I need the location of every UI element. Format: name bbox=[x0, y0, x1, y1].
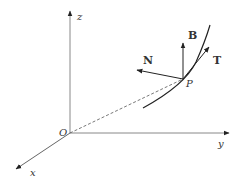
normal-vector bbox=[137, 70, 183, 79]
z-label: z bbox=[76, 11, 83, 22]
x-axis bbox=[16, 133, 70, 169]
tangent-label: T bbox=[213, 54, 222, 67]
x-label: x bbox=[30, 167, 36, 178]
origin-label: O bbox=[59, 127, 67, 138]
y-label: y bbox=[217, 138, 224, 149]
tangent-vector bbox=[183, 47, 209, 79]
normal-label: N bbox=[143, 54, 153, 67]
frenet-diagram: z y x O P B N T bbox=[0, 0, 239, 181]
binormal-label: B bbox=[188, 29, 197, 42]
point-label: P bbox=[185, 78, 193, 89]
position-vector bbox=[70, 79, 183, 133]
